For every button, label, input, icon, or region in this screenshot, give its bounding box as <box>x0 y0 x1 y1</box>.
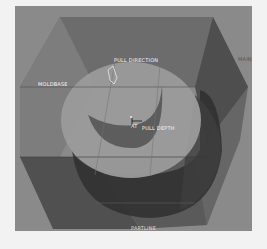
label-main: MAIN <box>238 56 252 62</box>
label-pull-direction: PULL DIRECTION <box>114 57 158 63</box>
label-pull-depth: PULL DEPTH <box>142 125 175 131</box>
ring-face <box>61 62 201 178</box>
label-moldbase: MOLDBASE <box>38 81 68 87</box>
label-partline: PARTLINE <box>131 225 156 231</box>
origin-dot-icon <box>130 116 132 118</box>
label-at: AT <box>131 123 138 129</box>
